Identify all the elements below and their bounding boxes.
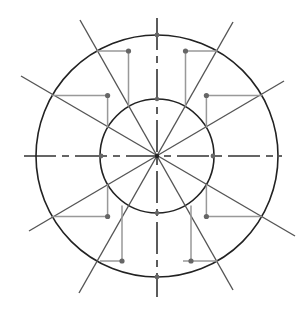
construction-diagram bbox=[0, 0, 306, 309]
dot-axis-left-inner bbox=[99, 154, 104, 159]
dot-axis-top-outer bbox=[155, 33, 160, 38]
dot-center bbox=[155, 154, 159, 158]
dot-lower-right-steep bbox=[188, 258, 193, 263]
dot-lower-right-shallow bbox=[204, 214, 209, 219]
dot-axis-bottom-outer bbox=[155, 275, 160, 280]
dot-upper-right-steep bbox=[183, 48, 188, 53]
dot-axis-top-inner bbox=[155, 97, 159, 101]
leader-upper-left-shallow bbox=[52, 96, 107, 128]
dot-upper-right-shallow bbox=[204, 93, 209, 98]
leader-upper-right-shallow bbox=[206, 96, 261, 128]
dot-lower-left-shallow bbox=[105, 214, 110, 219]
dot-upper-left-shallow bbox=[105, 93, 110, 98]
dot-axis-right-inner bbox=[211, 154, 216, 159]
leader-lower-left-steep bbox=[100, 205, 122, 261]
dot-axis-bottom-inner bbox=[155, 211, 159, 215]
dot-upper-left-steep bbox=[126, 48, 131, 53]
dot-lower-left-steep bbox=[119, 258, 124, 263]
